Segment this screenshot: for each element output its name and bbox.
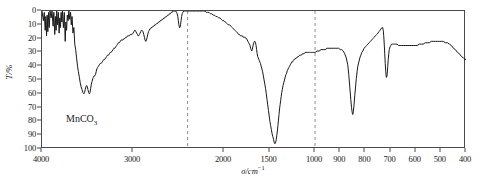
x-axis-title-exponent: −1 <box>258 164 265 171</box>
y-axis-tick-label: 20 <box>28 33 36 42</box>
reference-lines <box>188 11 315 149</box>
x-axis-tick-label: 3000 <box>124 155 140 164</box>
plot-area <box>41 10 465 148</box>
x-axis-tick-label: 2000 <box>215 155 231 164</box>
y-axis-tick-label: 90 <box>28 130 36 139</box>
spectrum-curve <box>42 11 466 143</box>
y-axis-tick-label: 10 <box>28 20 36 29</box>
x-axis-tick-label: 600 <box>409 155 421 164</box>
sample-annotation-subscript: 3 <box>94 119 98 127</box>
y-axis-tick-label: 100 <box>24 144 36 153</box>
x-axis-tick-mark <box>41 148 42 152</box>
y-axis-tick-label: 30 <box>28 47 36 56</box>
y-axis-tick-label: 80 <box>28 116 36 125</box>
x-axis-tick-label: 1500 <box>260 155 276 164</box>
x-axis-tick-mark <box>465 148 466 152</box>
x-axis-tick-mark <box>223 148 224 152</box>
x-axis-tick-mark <box>132 148 133 152</box>
sample-annotation: MnCO3 <box>66 113 97 127</box>
y-axis-tick-label: 60 <box>28 89 36 98</box>
x-axis-tick-label: 1000 <box>306 155 322 164</box>
y-axis-tick-label: 70 <box>28 102 36 111</box>
x-axis-tick-label: 400 <box>459 155 471 164</box>
x-axis-tick-mark <box>389 148 390 152</box>
x-axis-tick-label: 900 <box>333 155 345 164</box>
y-axis-title: T/% <box>4 64 14 79</box>
x-axis-tick-label: 800 <box>358 155 370 164</box>
x-axis-tick-mark <box>339 148 340 152</box>
x-axis-tick-mark <box>268 148 269 152</box>
x-axis-tick-label: 500 <box>434 155 446 164</box>
x-axis-tick-mark <box>314 148 315 152</box>
x-axis-title: σ/cm−1 <box>241 164 264 176</box>
x-axis-tick-mark <box>439 148 440 152</box>
ir-spectrum-figure: 1009080706050403020100 T/% 4000300020001… <box>0 0 485 187</box>
x-axis-tick-mark <box>414 148 415 152</box>
x-axis-tick-label: 4000 <box>33 155 49 164</box>
x-axis-tick-label: 700 <box>383 155 395 164</box>
y-axis-tick-label: 40 <box>28 61 36 70</box>
x-axis-tick-mark <box>364 148 365 152</box>
spectrum-plot <box>42 11 466 149</box>
y-axis-tick-label: 0 <box>32 6 36 15</box>
y-axis-tick-label: 50 <box>28 75 36 84</box>
